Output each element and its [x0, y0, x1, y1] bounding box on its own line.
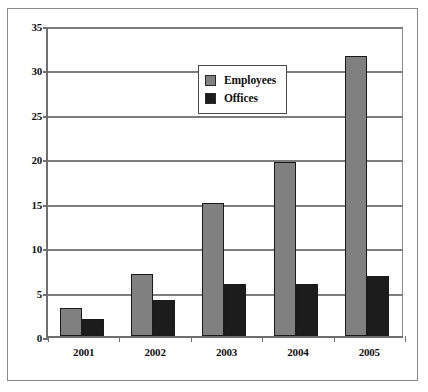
y-axis-tick-label: 0	[37, 332, 42, 344]
bar-employees-2001	[60, 308, 82, 336]
legend-swatch-icon	[205, 75, 216, 86]
bar-offices-2005	[367, 276, 389, 336]
bar-offices-2003	[224, 284, 246, 336]
chart-legend: EmployeesOffices	[198, 65, 287, 114]
bar-offices-2002	[153, 300, 175, 336]
x-axis-tick-label: 2003	[216, 346, 237, 358]
x-axis-tick-label: 2004	[287, 346, 308, 358]
bar-offices-2001	[82, 319, 104, 336]
chart-figure: 05101520253035 20012002200320042005 Empl…	[7, 8, 418, 381]
legend-label: Employees	[224, 74, 276, 86]
x-axis-tick-mark	[48, 336, 49, 342]
bar-employees-2004	[274, 162, 296, 336]
x-axis-tick-mark	[119, 336, 120, 342]
bar-employees-2003	[202, 203, 224, 336]
x-axis-tick-mark	[334, 336, 335, 342]
x-axis-tick-label: 2002	[144, 346, 165, 358]
bar-employees-2005	[345, 56, 367, 336]
x-axis-tick-mark	[405, 336, 406, 342]
legend-swatch-icon	[205, 93, 216, 104]
y-axis-tick-label: 10	[31, 243, 42, 255]
bar-employees-2002	[131, 274, 153, 336]
bar-group	[48, 27, 119, 336]
x-axis-tick-label: 2001	[73, 346, 94, 358]
bar-group	[119, 27, 190, 336]
legend-item-offices: Offices	[205, 89, 276, 107]
bar-offices-2004	[296, 284, 318, 336]
legend-label: Offices	[224, 92, 258, 104]
x-axis-tick-label: 2005	[359, 346, 380, 358]
x-axis-tick-mark	[262, 336, 263, 342]
y-axis-tick-label: 35	[31, 21, 42, 33]
y-axis-tick-label: 25	[31, 110, 42, 122]
y-axis-tick-label: 5	[37, 288, 42, 300]
bar-group	[334, 27, 405, 336]
y-axis-tick-label: 20	[31, 154, 42, 166]
y-axis-tick-label: 30	[31, 65, 42, 77]
x-axis-tick-mark	[191, 336, 192, 342]
y-axis-tick-label: 15	[31, 199, 42, 211]
legend-item-employees: Employees	[205, 71, 276, 89]
